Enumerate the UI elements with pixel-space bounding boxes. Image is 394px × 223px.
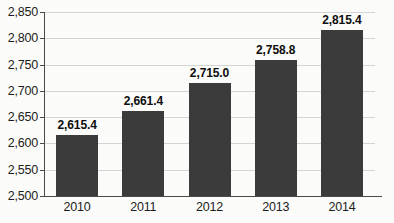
- bar: [321, 30, 363, 196]
- y-axis-tick-label: 2,750: [0, 58, 38, 72]
- bar-value-label: 2,815.4: [302, 13, 382, 27]
- y-axis-tick-label: 2,550: [0, 163, 38, 177]
- bar-value-label: 2,615.4: [37, 118, 117, 132]
- y-axis-tick-label: 2,500: [0, 189, 38, 203]
- bar-value-label: 2,715.0: [170, 66, 250, 80]
- bar: [56, 135, 98, 196]
- y-axis-tick-label: 2,800: [0, 31, 38, 45]
- y-axis-labels: 2,8502,8002,7502,7002,6502,6002,5502,500: [0, 0, 38, 223]
- bar-chart: 2,8502,8002,7502,7002,6502,6002,5502,500…: [0, 0, 394, 223]
- x-axis-line: [44, 196, 382, 197]
- bar-value-label: 2,758.8: [236, 43, 316, 57]
- y-axis-tick-label: 2,600: [0, 136, 38, 150]
- bar: [255, 60, 297, 196]
- y-axis-tick-label: 2,650: [0, 110, 38, 124]
- plot-area: [44, 12, 375, 196]
- y-axis-tick-label: 2,700: [0, 84, 38, 98]
- bar: [122, 111, 164, 196]
- bar-value-label: 2,661.4: [103, 94, 183, 108]
- y-axis-tick-label: 2,850: [0, 5, 38, 19]
- y-axis-line: [44, 12, 45, 197]
- x-axis-tick-label: 2014: [302, 200, 382, 214]
- bar: [189, 83, 231, 196]
